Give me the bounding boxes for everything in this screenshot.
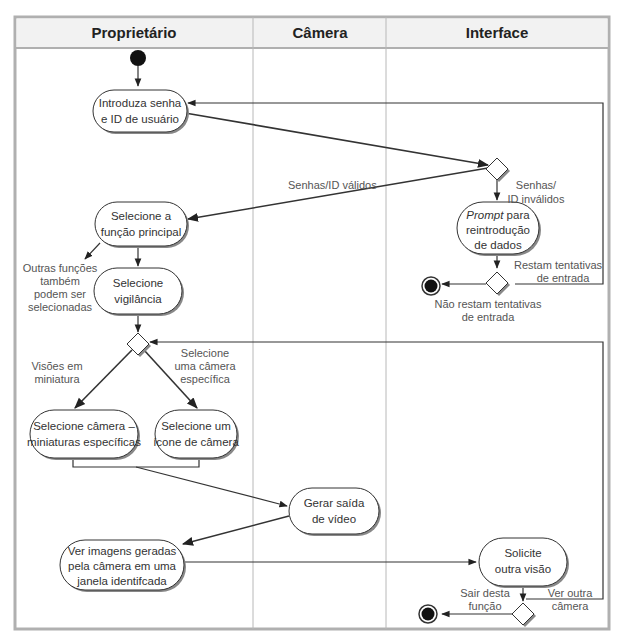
svg-text:Ver imagens geradas: Ver imagens geradas — [68, 545, 177, 557]
svg-text:de vídeo: de vídeo — [312, 513, 356, 525]
action-selecione-icone: Selecione um ícone de câmera — [153, 410, 239, 460]
label-sair-funcao-1: Sair desta — [460, 587, 510, 599]
svg-text:vigilância: vigilância — [114, 293, 162, 305]
svg-text:reintrodução: reintrodução — [466, 224, 530, 236]
label-restam-tentativas-1: Restam tentativas — [514, 259, 603, 271]
label-nao-restam-1: Não restam tentativas — [435, 298, 542, 310]
label-ver-outra-2: câmera — [552, 600, 590, 612]
svg-text:miniaturas específicas: miniaturas específicas — [27, 436, 141, 448]
svg-text:Solicite: Solicite — [504, 547, 541, 559]
lane-title-proprietario: Proprietário — [91, 24, 176, 41]
label-camera-especifica-1: Selecione — [181, 347, 229, 359]
label-camera-especifica-3: específica — [180, 373, 230, 385]
svg-text:Prompt para: Prompt para — [466, 209, 530, 221]
svg-text:função principal: função principal — [101, 226, 182, 238]
svg-text:e ID de usuário: e ID de usuário — [101, 113, 179, 125]
action-introduza-senha: Introduza senha e ID de usuário — [93, 90, 189, 134]
label-outras-funcoes-3: podem ser — [34, 288, 86, 300]
action-ver-imagens: Ver imagens geradas pela câmera em uma j… — [60, 540, 186, 592]
label-outras-funcoes-1: Outras funções — [23, 262, 98, 274]
svg-text:ícone de câmera: ícone de câmera — [153, 436, 239, 448]
svg-text:Selecione um: Selecione um — [161, 420, 231, 432]
lane-title-camera: Câmera — [292, 24, 348, 41]
label-outras-funcoes-2: também — [40, 275, 80, 287]
action-selecione-funcao: Selecione a função principal — [95, 202, 189, 248]
action-prompt-reintroducao: Prompt para reintrodução de dados — [457, 202, 541, 256]
lane-title-interface: Interface — [466, 24, 529, 41]
label-ver-outra-1: Ver outra — [548, 587, 594, 599]
label-sair-funcao-2: função — [468, 600, 501, 612]
label-senhas-validos: Senhas/ID válidos — [288, 179, 377, 191]
end-node-2 — [419, 605, 437, 623]
label-outras-funcoes-4: selecionadas — [28, 301, 93, 313]
action-selecione-vigilancia: Selecione vigilância — [94, 268, 184, 316]
svg-text:Introduza senha: Introduza senha — [99, 97, 182, 109]
svg-text:janela identifcada: janela identifcada — [76, 575, 167, 587]
start-node — [130, 50, 146, 66]
action-gerar-saida-video: Gerar saída de vídeo — [289, 488, 381, 536]
label-senhas-invalidos-2: ID inválidos — [508, 193, 565, 205]
end-node-1 — [422, 277, 440, 295]
label-visoes-miniatura-2: miniatura — [34, 373, 80, 385]
svg-text:outra visão: outra visão — [495, 563, 551, 575]
label-nao-restam-2: de entrada — [462, 311, 515, 323]
label-restam-tentativas-2: de entrada — [537, 272, 590, 284]
action-solicite-outra-visao: Solicite outra visão — [479, 538, 569, 588]
label-senhas-invalidos: Senhas/ — [516, 179, 557, 191]
svg-text:Selecione a: Selecione a — [111, 210, 172, 222]
svg-text:de dados: de dados — [474, 239, 522, 251]
label-visoes-miniatura-1: Visões em — [31, 360, 82, 372]
svg-text:Selecione câmera –: Selecione câmera – — [33, 420, 135, 432]
action-selecione-camera-miniaturas: Selecione câmera – miniaturas específica… — [27, 410, 141, 460]
label-camera-especifica-2: uma câmera — [174, 360, 236, 372]
svg-text:Gerar saída: Gerar saída — [304, 497, 365, 509]
svg-text:Selecione: Selecione — [113, 277, 164, 289]
svg-text:pela câmera em uma: pela câmera em uma — [68, 560, 177, 572]
activity-diagram: Proprietário Câmera Interface — [0, 0, 624, 644]
